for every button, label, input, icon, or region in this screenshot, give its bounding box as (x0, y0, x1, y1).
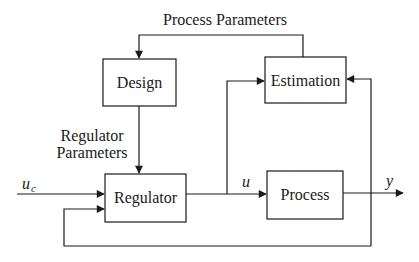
y-label: y (384, 172, 394, 190)
u-label: u (242, 173, 250, 190)
uc-subscript: c (31, 182, 36, 194)
design-label: Design (117, 74, 162, 92)
estimation-block: Estimation (265, 57, 346, 103)
regulator-parameters-label-line2: Parameters (56, 144, 127, 161)
design-block: Design (103, 59, 176, 106)
process-label: Process (281, 186, 330, 203)
regulator-parameters-label-line1: Regulator (60, 127, 124, 145)
process-block: Process (267, 171, 343, 219)
adaptive-control-diagram: Process Parameters Design Estimation Reg… (0, 0, 419, 262)
regulator-block: Regulator (105, 174, 186, 222)
estimation-label: Estimation (271, 72, 340, 89)
process-parameters-arrow (139, 35, 303, 58)
y-to-estimation-arrow (347, 79, 371, 246)
regulator-label: Regulator (114, 189, 178, 207)
uc-label: u (22, 175, 30, 192)
process-parameters-label: Process Parameters (163, 11, 287, 28)
